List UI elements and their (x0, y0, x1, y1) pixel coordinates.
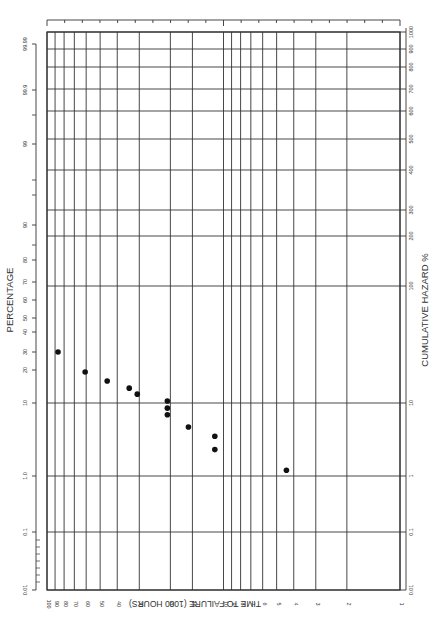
hazard-plot: 0.010.11.01020304050607080909999.999.99 … (0, 0, 434, 621)
svg-text:60: 60 (22, 297, 28, 303)
svg-text:900: 900 (408, 44, 414, 53)
hazard-axis-title: CUMULATIVE HAZARD % (419, 253, 430, 367)
svg-text:600: 600 (408, 106, 414, 115)
svg-text:6: 6 (262, 602, 268, 605)
svg-text:300: 300 (408, 205, 414, 214)
svg-text:80: 80 (63, 601, 69, 607)
hazard-axis-labels: 0.010.1110100200300400500600700800900100… (408, 26, 414, 595)
svg-text:0.1: 0.1 (408, 528, 414, 536)
svg-text:50: 50 (99, 601, 105, 607)
svg-text:700: 700 (408, 84, 414, 93)
svg-text:0.01: 0.01 (408, 585, 414, 596)
svg-text:0.01: 0.01 (22, 585, 28, 596)
svg-text:400: 400 (408, 165, 414, 174)
percentage-axis: 0.010.11.01020304050607080909999.999.99 (22, 37, 40, 595)
svg-text:60: 60 (85, 601, 91, 607)
svg-text:99.99: 99.99 (22, 37, 28, 51)
svg-text:1: 1 (399, 602, 405, 605)
percentage-axis-title: PERCENTAGE (4, 268, 15, 333)
svg-text:0.1: 0.1 (22, 528, 28, 536)
svg-text:70: 70 (73, 601, 79, 607)
data-point (212, 447, 218, 453)
svg-text:99: 99 (22, 141, 28, 147)
svg-text:1000: 1000 (408, 26, 414, 38)
data-point (284, 467, 290, 473)
data-point (212, 433, 218, 439)
svg-text:800: 800 (408, 62, 414, 71)
svg-text:30: 30 (22, 349, 28, 355)
svg-text:4: 4 (293, 602, 299, 605)
svg-text:50: 50 (22, 315, 28, 321)
svg-text:20: 20 (22, 367, 28, 373)
svg-text:1: 1 (408, 474, 414, 477)
svg-text:100: 100 (46, 599, 52, 608)
data-points (55, 349, 289, 473)
data-point (55, 349, 61, 355)
svg-text:90: 90 (22, 222, 28, 228)
top-tick-axis (47, 20, 400, 26)
svg-text:5: 5 (276, 602, 282, 605)
svg-text:99.9: 99.9 (22, 85, 28, 96)
data-point (104, 378, 110, 384)
plot-grid (47, 28, 406, 590)
data-point (165, 398, 171, 404)
svg-text:1.0: 1.0 (22, 472, 28, 480)
svg-text:40: 40 (116, 601, 122, 607)
time-axis-title: TIME TO FAILURE (1000 HOURS) (129, 599, 261, 609)
data-point (165, 412, 171, 418)
svg-text:3: 3 (315, 602, 321, 605)
data-point (134, 391, 140, 397)
svg-text:500: 500 (408, 134, 414, 143)
svg-text:80: 80 (22, 257, 28, 263)
svg-text:70: 70 (22, 279, 28, 285)
data-point (186, 424, 192, 430)
svg-text:10: 10 (22, 400, 28, 406)
svg-text:10: 10 (408, 400, 414, 406)
svg-text:200: 200 (408, 231, 414, 240)
svg-text:40: 40 (22, 329, 28, 335)
data-point (165, 405, 171, 411)
svg-text:100: 100 (408, 281, 414, 290)
data-point (126, 385, 132, 391)
svg-text:2: 2 (346, 602, 352, 605)
svg-text:90: 90 (54, 601, 60, 607)
data-point (82, 369, 88, 375)
